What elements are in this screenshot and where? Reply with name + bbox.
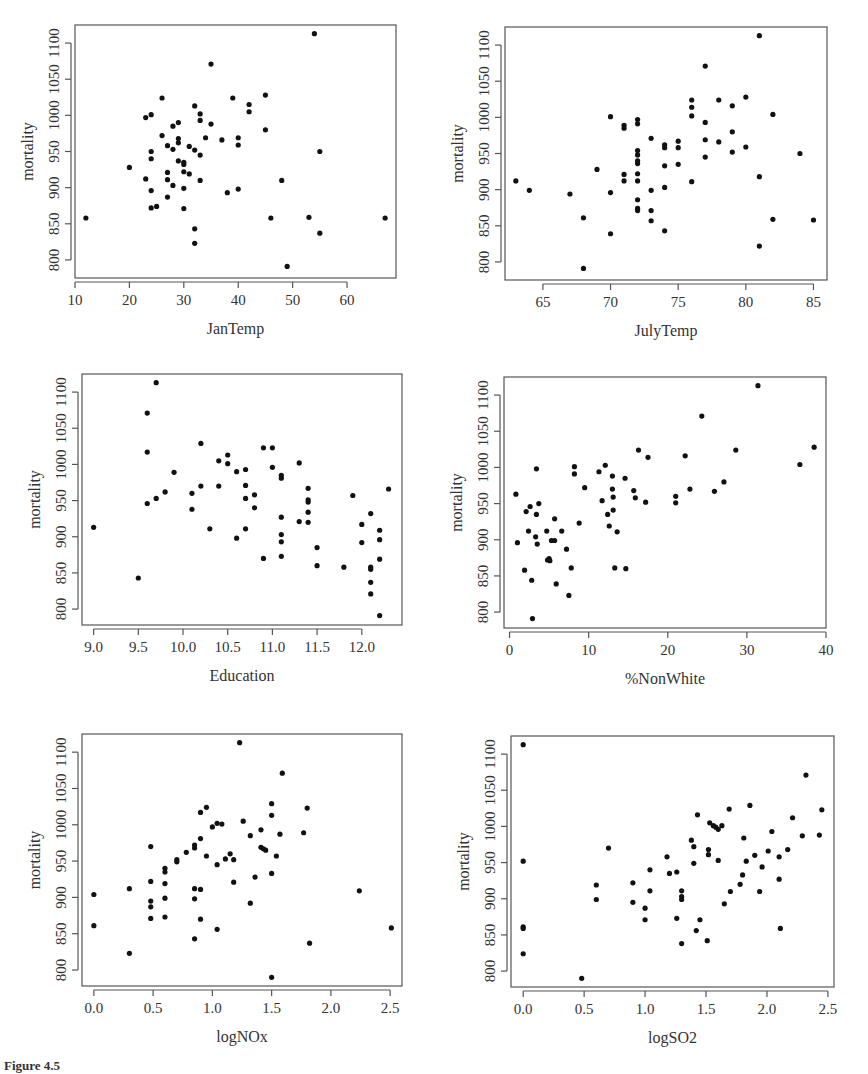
data-point <box>635 171 640 176</box>
data-point <box>521 742 526 747</box>
y-tick-label: 1000 <box>482 811 498 841</box>
data-point <box>187 171 192 176</box>
y-axis-label: mortality <box>448 473 466 532</box>
data-point <box>243 467 248 472</box>
data-point <box>165 177 170 182</box>
data-point <box>521 859 526 864</box>
data-point <box>535 541 540 546</box>
y-tick-label: 1000 <box>475 452 491 482</box>
data-points <box>83 31 387 269</box>
data-point <box>149 156 154 161</box>
data-points <box>513 383 816 621</box>
data-point <box>524 509 529 514</box>
y-tick-label: 1050 <box>53 773 69 803</box>
data-point <box>606 846 611 851</box>
data-point <box>368 567 373 572</box>
x-axis-label: Education <box>210 667 275 684</box>
data-point <box>91 892 96 897</box>
data-point <box>165 194 170 199</box>
y-axis-label: mortality <box>449 124 467 183</box>
data-point <box>790 815 795 820</box>
data-point <box>317 149 322 154</box>
data-point <box>691 861 696 866</box>
data-point <box>192 845 197 850</box>
data-point <box>148 904 153 909</box>
data-point <box>716 139 721 144</box>
data-point <box>766 848 771 853</box>
y-tick-label: 1000 <box>476 102 492 132</box>
data-point <box>162 869 167 874</box>
data-point <box>705 938 710 943</box>
data-point <box>176 120 181 125</box>
data-point <box>314 563 319 568</box>
data-point <box>136 575 141 580</box>
data-point <box>733 447 738 452</box>
data-point <box>247 102 252 107</box>
x-axis-label: %NonWhite <box>625 670 705 687</box>
data-point <box>215 821 220 826</box>
data-point <box>306 499 311 504</box>
data-point <box>263 848 268 853</box>
x-tick-label: 20 <box>122 292 137 308</box>
data-point <box>280 771 285 776</box>
data-point <box>127 886 132 891</box>
data-point <box>162 896 167 901</box>
data-point <box>148 898 153 903</box>
data-point <box>306 510 311 515</box>
x-tick-label: 1.0 <box>203 1000 222 1016</box>
data-point <box>203 135 208 140</box>
data-point <box>811 217 816 222</box>
data-point <box>268 215 273 220</box>
data-point <box>572 464 577 469</box>
data-point <box>377 528 382 533</box>
data-point <box>252 492 257 497</box>
data-point <box>187 144 192 149</box>
data-point <box>530 616 535 621</box>
x-tick-label: 0.0 <box>84 1000 103 1016</box>
x-tick-label: 9.5 <box>129 639 148 655</box>
data-point <box>234 469 239 474</box>
data-point <box>534 466 539 471</box>
x-tick-label: 85 <box>806 294 821 310</box>
data-point <box>305 805 310 810</box>
data-point <box>341 565 346 570</box>
x-tick-label: 0.5 <box>575 1001 594 1017</box>
data-point <box>673 494 678 499</box>
data-point <box>740 872 745 877</box>
data-point <box>192 936 197 941</box>
data-point <box>143 176 148 181</box>
data-point <box>314 545 319 550</box>
data-point <box>757 243 762 248</box>
data-point <box>691 844 696 849</box>
data-point <box>198 111 203 116</box>
data-point <box>567 191 572 196</box>
data-point <box>252 874 257 879</box>
x-tick-label: 1.5 <box>697 1001 716 1017</box>
data-point <box>706 852 711 857</box>
data-point <box>703 137 708 142</box>
data-point <box>279 178 284 183</box>
data-point <box>189 507 194 512</box>
data-point <box>757 174 762 179</box>
data-point <box>722 901 727 906</box>
x-tick-label: 2.0 <box>758 1001 777 1017</box>
data-point <box>176 140 181 145</box>
data-point <box>689 105 694 110</box>
data-point <box>258 827 263 832</box>
data-point <box>689 113 694 118</box>
y-tick-label: 1100 <box>476 30 492 59</box>
data-point <box>730 149 735 154</box>
x-tick-label: 65 <box>535 294 550 310</box>
x-axis-label: logSO2 <box>648 1029 697 1047</box>
data-point <box>755 383 760 388</box>
data-point <box>695 812 700 817</box>
data-point <box>621 178 626 183</box>
data-point <box>210 824 215 829</box>
x-tick-label: 11.0 <box>260 639 286 655</box>
y-tick-label: 800 <box>53 598 69 621</box>
data-point <box>389 925 394 930</box>
data-point <box>635 161 640 166</box>
data-point <box>635 197 640 202</box>
data-point <box>716 858 721 863</box>
data-point <box>621 126 626 131</box>
